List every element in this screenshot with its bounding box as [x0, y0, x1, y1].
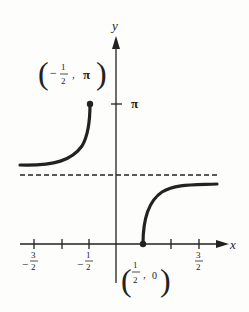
x-tick-label-neg-three-halves: − 3 2: [22, 250, 38, 272]
svg-text:(: (: [38, 55, 49, 91]
svg-text:3: 3: [196, 250, 201, 260]
svg-text:,: ,: [143, 268, 146, 280]
left-endpoint-label: ( − 1 2 , π ): [38, 55, 107, 91]
x-axis-arrow-icon: [216, 240, 229, 248]
svg-text:3: 3: [31, 250, 36, 260]
right-branch-curve: [143, 184, 217, 244]
svg-text:−: −: [22, 258, 28, 270]
svg-text:2: 2: [61, 76, 66, 86]
svg-text:2: 2: [86, 262, 91, 272]
x-tick-label-neg-one-half: − 1 2: [77, 250, 93, 272]
svg-text:2: 2: [196, 262, 201, 272]
svg-text:−: −: [50, 66, 57, 80]
svg-text:1: 1: [61, 62, 66, 72]
svg-text:): ): [96, 55, 107, 91]
svg-text:(: (: [121, 262, 132, 298]
svg-text:,: ,: [72, 68, 75, 80]
svg-text:1: 1: [86, 250, 91, 260]
x-tick-label-three-halves: 3 2: [195, 250, 203, 272]
left-endpoint-dot: [87, 101, 93, 107]
right-endpoint-dot: [140, 241, 146, 247]
function-graph: x y − 3 2 − 1 2 3 2 π ( − 1: [0, 0, 249, 312]
y-axis-arrow-icon: [112, 36, 120, 49]
x-axis-label: x: [229, 237, 236, 252]
svg-text:): ): [160, 262, 171, 298]
left-branch-curve: [20, 104, 90, 165]
right-endpoint-label: ( 1 2 , 0 ): [121, 260, 171, 298]
svg-text:2: 2: [31, 262, 36, 272]
svg-text:0: 0: [152, 270, 157, 281]
y-axis-label: y: [110, 18, 118, 33]
svg-text:−: −: [77, 258, 83, 270]
svg-text:2: 2: [133, 275, 138, 285]
y-tick-label-pi: π: [131, 96, 138, 111]
svg-text:π: π: [83, 67, 90, 82]
svg-text:1: 1: [133, 260, 138, 270]
